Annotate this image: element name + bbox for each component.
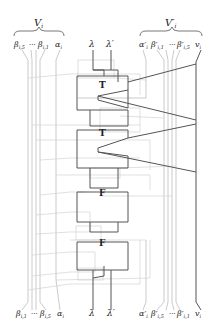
inner-light-boxes	[76, 60, 176, 280]
label-beta-prime-i5-bottom: β′i,5	[150, 309, 164, 319]
label-dots-top-left: ···	[29, 41, 36, 49]
label-beta-i5-top: βi,5	[13, 40, 25, 50]
wiring-diagram: Vi βi,5 ··· βi,1 αi λ λ′ V′i α′i β′i,1 ·…	[0, 0, 218, 333]
label-alpha-prime-i-bottom: α′i	[139, 309, 148, 319]
left-cross-links	[28, 74, 150, 290]
gadget-label-t1: T	[99, 80, 106, 90]
label-beta-prime-i1-bottom: β′i,1	[176, 309, 190, 319]
label-lambda-prime-bottom: λ′	[106, 308, 115, 318]
label-v-i-top: vi	[195, 40, 202, 50]
label-dots-top-right: ···	[169, 41, 176, 49]
label-beta-i1-top: βi,1	[37, 40, 49, 50]
label-v-i-bottom: vi	[195, 309, 202, 319]
label-v-i: Vi	[34, 17, 43, 29]
label-v-prime-i: V′i	[165, 17, 177, 29]
brace-v-prime-i	[140, 27, 202, 36]
left-wire-bundle	[22, 50, 60, 310]
wire-v-i	[196, 50, 201, 310]
label-beta-i1-bottom: βi,1	[15, 309, 27, 319]
label-dots-bottom-right: ···	[169, 310, 176, 318]
label-lambda-bottom: λ	[88, 308, 95, 318]
label-beta-i5-bottom: βi,5	[39, 309, 51, 319]
label-alpha-i-bottom: αi	[57, 309, 64, 319]
gadget-label-t2: T	[99, 128, 106, 138]
label-beta-prime-i5-top: β′i,5	[176, 40, 190, 50]
brace-v-i	[14, 27, 64, 36]
gadget-label-f1: F	[99, 188, 106, 198]
gadget-label-f2: F	[99, 238, 106, 248]
label-beta-prime-i1-top: β′i,1	[150, 40, 164, 50]
label-lambda-prime-top: λ′	[105, 39, 114, 49]
label-lambda-top: λ	[88, 39, 95, 49]
label-dots-bottom-left: ···	[31, 310, 38, 318]
label-alpha-i-top: αi	[55, 40, 62, 50]
label-alpha-prime-i-top: α′i	[139, 40, 148, 50]
